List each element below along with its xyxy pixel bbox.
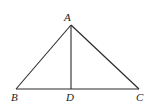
point-label-d: D bbox=[65, 91, 74, 103]
vertex-label-a: A bbox=[63, 11, 71, 23]
triangle-diagram: A B D C bbox=[0, 0, 152, 110]
vertex-label-b: B bbox=[11, 91, 18, 103]
vertex-label-c: C bbox=[136, 91, 144, 103]
segment-ac bbox=[71, 25, 139, 89]
segment-ab bbox=[16, 25, 71, 89]
